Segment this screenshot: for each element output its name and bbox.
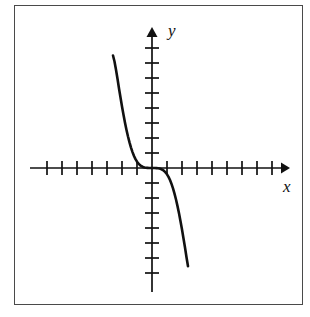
- x-axis-arrow-icon: [281, 163, 290, 174]
- y-axis-arrow-icon: [147, 27, 158, 37]
- x-axis-label: x: [282, 177, 291, 196]
- y-axis-group: [145, 27, 159, 292]
- figure-root: y x: [0, 0, 310, 317]
- function-curve: [113, 56, 188, 267]
- graph-canvas: y x: [0, 0, 310, 317]
- y-axis-label: y: [166, 21, 176, 40]
